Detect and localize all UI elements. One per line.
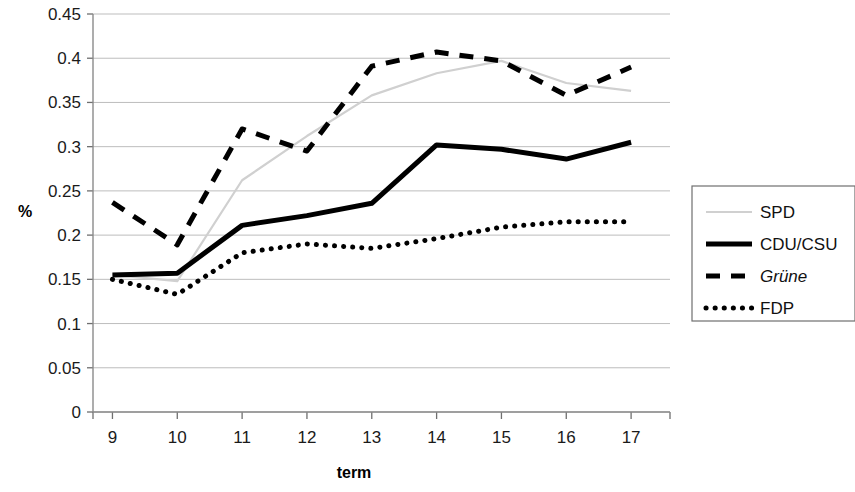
legend-label-spd: SPD	[760, 203, 795, 222]
x-tick-label: 15	[492, 428, 511, 447]
x-tick-label: 11	[233, 428, 251, 447]
y-tick-label: 0	[72, 403, 81, 422]
chart-legend: SPDCDU/CSUGrüneFDP	[692, 186, 855, 321]
y-tick-label: 0.45	[48, 5, 81, 24]
y-axis-title: %	[18, 203, 32, 220]
x-tick-label: 12	[297, 428, 316, 447]
y-tick-label: 0.1	[57, 315, 81, 334]
legend-label-cdu-csu: CDU/CSU	[760, 235, 837, 254]
legend-label-gr-ne: Grüne	[760, 267, 807, 286]
y-tick-label: 0.35	[48, 93, 81, 112]
y-tick-label: 0.15	[48, 270, 81, 289]
y-tick-label: 0.25	[48, 182, 81, 201]
x-tick-label: 17	[622, 428, 641, 447]
y-tick-label: 0.4	[57, 49, 81, 68]
x-tick-label: 14	[427, 428, 446, 447]
x-tick-label: 16	[557, 428, 576, 447]
x-axis-title: term	[337, 464, 372, 481]
y-tick-label: 0.3	[57, 138, 81, 157]
legend-label-fdp: FDP	[760, 299, 794, 318]
y-tick-label: 0.2	[57, 226, 81, 245]
x-tick-label: 13	[362, 428, 381, 447]
y-tick-label: 0.05	[48, 359, 81, 378]
x-tick-label: 10	[168, 428, 187, 447]
line-chart: 00.050.10.150.20.250.30.350.40.45 910111…	[0, 0, 855, 492]
x-tick-label: 9	[108, 428, 117, 447]
chart-canvas: 00.050.10.150.20.250.30.350.40.45 910111…	[0, 0, 855, 492]
